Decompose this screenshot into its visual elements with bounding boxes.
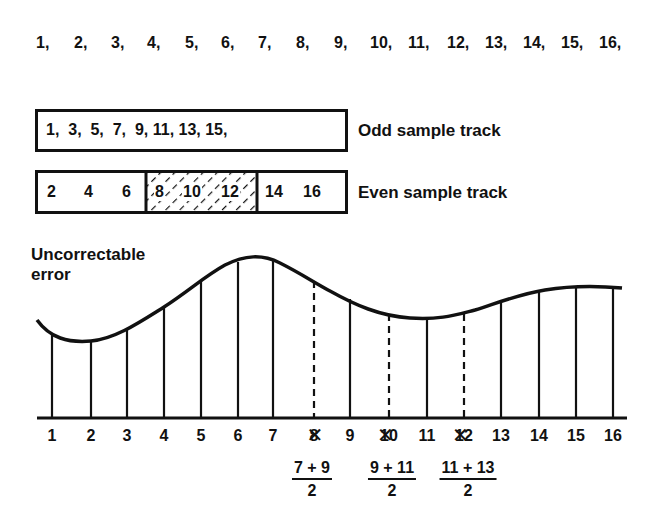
interpolation-fraction: 11 + 132	[440, 459, 497, 500]
interpolation-fraction: 9 + 112	[368, 459, 416, 500]
axis-label-8: 8✕	[310, 427, 319, 445]
fraction-numerator: 7 + 9	[292, 459, 332, 480]
axis-label-14: 14	[530, 427, 548, 445]
axis-label-2: 2	[87, 427, 96, 445]
axis-label-5: 5	[197, 427, 206, 445]
axis-label-16: 16	[604, 427, 622, 445]
axis-label-4: 4	[160, 427, 169, 445]
axis-label-6: 6	[234, 427, 243, 445]
axis-label-1: 1	[48, 427, 57, 445]
axis-label-7: 7	[269, 427, 278, 445]
axis-label-12: 12✕	[455, 427, 473, 445]
fraction-denominator: 2	[292, 482, 332, 500]
cross-out-mark: ✕	[307, 426, 324, 444]
waveform-plot	[0, 0, 658, 525]
waveform-curve	[37, 257, 622, 342]
interpolation-fraction: 7 + 92	[292, 459, 332, 500]
axis-label-15: 15	[567, 427, 585, 445]
fraction-numerator: 11 + 13	[440, 459, 497, 480]
axis-label-3: 3	[123, 427, 132, 445]
fraction-denominator: 2	[440, 482, 497, 500]
axis-label-13: 13	[492, 427, 510, 445]
sample-stems	[52, 261, 613, 418]
cross-out-mark: ✕	[452, 426, 469, 444]
axis-label-9: 9	[346, 427, 355, 445]
fraction-numerator: 9 + 11	[368, 459, 416, 480]
cross-out-mark: ✕	[377, 426, 394, 444]
fraction-denominator: 2	[368, 482, 416, 500]
axis-label-11: 11	[419, 427, 436, 445]
axis-label-10: 10✕	[380, 427, 398, 445]
